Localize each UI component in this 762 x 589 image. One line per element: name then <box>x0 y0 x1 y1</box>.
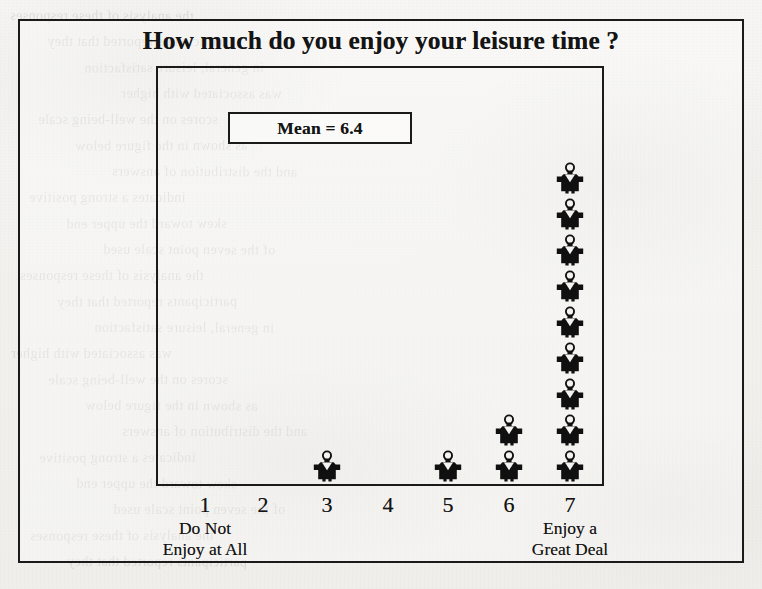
x-axis-tick-6: 6 <box>489 492 529 518</box>
x-axis-tick-7: 7 <box>550 492 590 518</box>
axis-caption-right-line1: Enjoy a <box>470 518 670 539</box>
mean-annotation-label: Mean = 6.4 <box>277 118 362 139</box>
axis-caption-right: Enjoy a Great Deal <box>470 518 670 560</box>
axis-caption-left-line1: Do Not <box>105 518 305 539</box>
x-axis-tick-1: 1 <box>185 492 225 518</box>
axis-caption-right-line2: Great Deal <box>470 539 670 560</box>
x-axis-tick-2: 2 <box>243 492 283 518</box>
x-axis-tick-4: 4 <box>368 492 408 518</box>
x-axis-tick-3: 3 <box>307 492 347 518</box>
axis-caption-left: Do Not Enjoy at All <box>105 518 305 560</box>
axis-caption-left-line2: Enjoy at All <box>105 539 305 560</box>
x-axis-tick-5: 5 <box>428 492 468 518</box>
mean-annotation-box: Mean = 6.4 <box>228 112 412 144</box>
chart-title: How much do you enjoy your leisure time … <box>18 26 744 56</box>
